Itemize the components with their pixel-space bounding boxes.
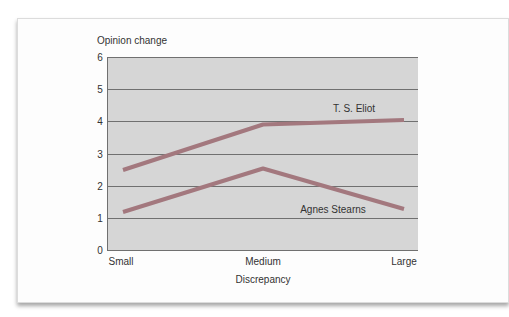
x-tick-labels: Small Medium Large <box>108 256 417 267</box>
y-tick-1: 1 <box>97 213 103 224</box>
series-label-agnes-stearns: Agnes Stearns <box>300 204 366 215</box>
x-tick-large: Large <box>391 256 417 267</box>
series-label-ts-eliot: T. S. Eliot <box>333 103 375 114</box>
y-tick-labels: 0 1 2 3 4 5 6 <box>97 52 103 256</box>
x-tick-medium: Medium <box>245 256 281 267</box>
y-axis-label: Opinion change <box>97 35 167 46</box>
plot-area <box>107 57 418 250</box>
y-tick-6: 6 <box>97 52 103 63</box>
x-tick-small: Small <box>108 256 133 267</box>
y-tick-3: 3 <box>97 149 103 160</box>
y-tick-5: 5 <box>97 84 103 95</box>
x-axis-label: Discrepancy <box>235 274 290 285</box>
y-tick-2: 2 <box>97 181 103 192</box>
y-tick-4: 4 <box>97 116 103 127</box>
y-tick-0: 0 <box>97 245 103 256</box>
